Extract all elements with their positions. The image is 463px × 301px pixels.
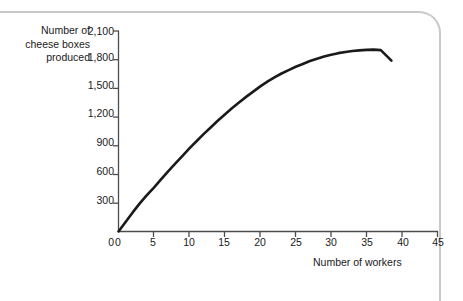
total-product-curve	[119, 50, 392, 232]
